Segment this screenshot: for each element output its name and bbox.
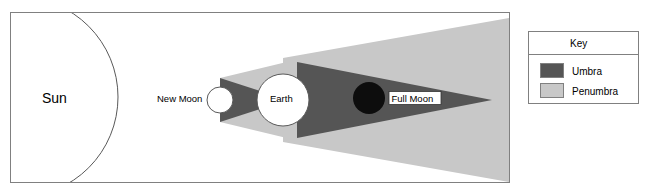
earth-label: Earth bbox=[270, 93, 293, 104]
diagram-canvas: Sun New Moon Earth Full Moon Key Umbra bbox=[0, 0, 648, 195]
legend-swatch-umbra bbox=[541, 64, 564, 78]
legend-label-umbra: Umbra bbox=[572, 66, 602, 77]
sun-label: Sun bbox=[42, 90, 67, 106]
legend: Key Umbra Penumbra bbox=[529, 32, 639, 104]
legend-swatch-penumbra bbox=[541, 84, 564, 98]
full-moon-label-group: Full Moon bbox=[389, 92, 441, 105]
legend-item-penumbra: Penumbra bbox=[541, 84, 619, 98]
legend-label-penumbra: Penumbra bbox=[572, 86, 619, 97]
legend-title: Key bbox=[570, 38, 587, 49]
new-moon-body bbox=[207, 87, 233, 113]
new-moon-label: New Moon bbox=[157, 93, 202, 104]
full-moon-label: Full Moon bbox=[392, 93, 434, 104]
full-moon-body bbox=[353, 82, 385, 114]
eclipse-diagram-svg: Sun New Moon Earth Full Moon Key Umbra bbox=[0, 0, 648, 195]
legend-item-umbra: Umbra bbox=[541, 64, 603, 78]
